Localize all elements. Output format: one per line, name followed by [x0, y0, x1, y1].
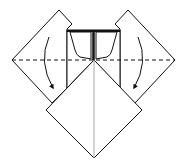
right-flap: [115, 10, 175, 103]
origami-diagram: [0, 0, 185, 166]
left-flap: [12, 10, 72, 103]
